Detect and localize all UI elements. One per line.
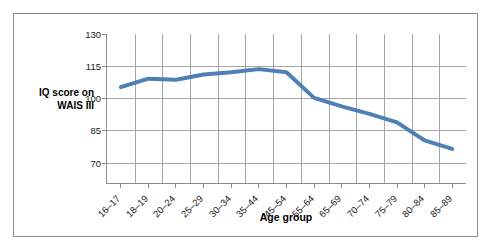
chart-figure: IQ score on WAIS III 1301151008570 16–17… bbox=[13, 13, 478, 237]
y-tick-label-130: 130 bbox=[85, 29, 101, 40]
x-tick-mark-4 bbox=[231, 184, 232, 188]
y-tick-label-85: 85 bbox=[90, 125, 101, 136]
plot-wrapper: 1301151008570 16–1718–1920–2425–2930–343… bbox=[106, 34, 466, 184]
y-axis-title-line-1: IQ score on bbox=[18, 87, 94, 100]
x-tick-mark-1 bbox=[148, 184, 149, 188]
y-tick-mark-130 bbox=[102, 34, 106, 35]
y-tick-mark-85 bbox=[102, 130, 106, 131]
iq-line-path bbox=[121, 69, 452, 149]
x-axis-title: Age group bbox=[106, 211, 466, 223]
line-series bbox=[107, 34, 466, 183]
x-tick-mark-0 bbox=[120, 184, 121, 188]
x-tick-mark-9 bbox=[369, 184, 370, 188]
y-tick-label-100: 100 bbox=[85, 93, 101, 104]
y-tick-mark-70 bbox=[102, 163, 106, 164]
x-tick-mark-11 bbox=[424, 184, 425, 188]
x-tick-mark-2 bbox=[175, 184, 176, 188]
x-tick-mark-5 bbox=[258, 184, 259, 188]
x-tick-mark-6 bbox=[286, 184, 287, 188]
plot-area bbox=[106, 34, 466, 184]
x-tick-mark-10 bbox=[397, 184, 398, 188]
x-tick-mark-3 bbox=[203, 184, 204, 188]
y-tick-mark-100 bbox=[102, 98, 106, 99]
y-tick-mark-115 bbox=[102, 66, 106, 67]
x-tick-mark-12 bbox=[452, 184, 453, 188]
y-axis-title-line-2: WAIS III bbox=[18, 100, 94, 113]
x-tick-mark-8 bbox=[341, 184, 342, 188]
y-tick-label-70: 70 bbox=[90, 157, 101, 168]
y-tick-label-115: 115 bbox=[86, 61, 101, 72]
y-axis-title: IQ score on WAIS III bbox=[18, 87, 94, 112]
x-tick-mark-7 bbox=[314, 184, 315, 188]
